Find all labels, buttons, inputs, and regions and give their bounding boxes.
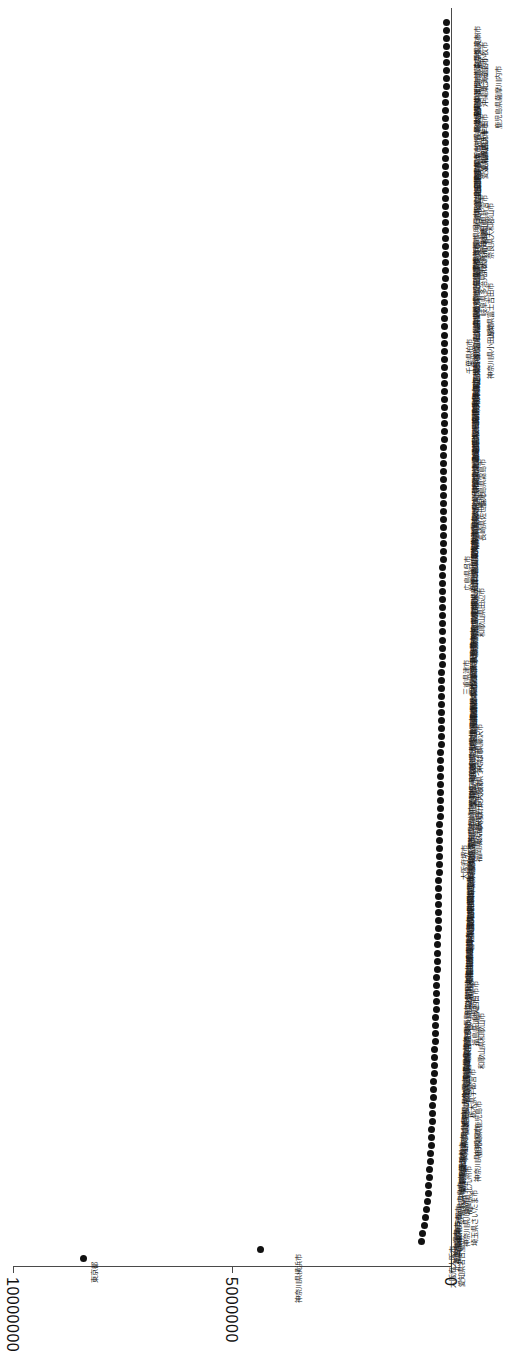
data-point[interactable]: [438, 717, 445, 724]
data-point[interactable]: [442, 243, 449, 250]
data-point[interactable]: [442, 131, 449, 138]
data-point[interactable]: [437, 813, 444, 820]
data-point[interactable]: [438, 725, 445, 732]
data-point[interactable]: [442, 203, 449, 210]
data-point[interactable]: [441, 315, 448, 322]
data-point[interactable]: [434, 958, 441, 965]
data-point[interactable]: [421, 1222, 428, 1229]
data-point[interactable]: [442, 219, 449, 226]
data-point[interactable]: [442, 267, 449, 274]
data-point[interactable]: [442, 251, 449, 258]
data-point[interactable]: [443, 75, 450, 82]
data-point[interactable]: [427, 1150, 434, 1157]
data-point[interactable]: [440, 532, 447, 539]
data-point[interactable]: [440, 444, 447, 451]
data-point[interactable]: [430, 1094, 437, 1101]
data-point[interactable]: [440, 452, 447, 459]
data-point[interactable]: [443, 43, 450, 50]
data-point[interactable]: [442, 179, 449, 186]
data-point[interactable]: [437, 781, 444, 788]
data-point[interactable]: [427, 1158, 434, 1165]
data-point[interactable]: [439, 637, 446, 644]
data-point[interactable]: [441, 340, 448, 347]
data-point[interactable]: [430, 1086, 437, 1093]
data-point[interactable]: [431, 1062, 438, 1069]
data-point[interactable]: [426, 1166, 433, 1173]
data-point[interactable]: [436, 837, 443, 844]
data-point[interactable]: [439, 628, 446, 635]
data-point[interactable]: [437, 749, 444, 756]
data-point[interactable]: [442, 235, 449, 242]
data-point[interactable]: [439, 588, 446, 595]
data-point[interactable]: [439, 645, 446, 652]
data-point[interactable]: [429, 1102, 436, 1109]
data-point[interactable]: [441, 291, 448, 298]
data-point[interactable]: [440, 460, 447, 467]
data-point[interactable]: [418, 1238, 425, 1245]
data-point[interactable]: [442, 155, 449, 162]
data-point[interactable]: [442, 107, 449, 114]
data-point[interactable]: [442, 259, 449, 266]
data-point[interactable]: [425, 1182, 432, 1189]
data-point[interactable]: [433, 1006, 440, 1013]
data-point[interactable]: [441, 396, 448, 403]
data-point[interactable]: [440, 508, 447, 515]
data-point[interactable]: [440, 556, 447, 563]
data-point[interactable]: [436, 845, 443, 852]
data-point[interactable]: [80, 1255, 87, 1262]
data-point[interactable]: [435, 885, 442, 892]
data-point[interactable]: [438, 669, 445, 676]
data-point[interactable]: [437, 773, 444, 780]
data-point[interactable]: [443, 59, 450, 66]
data-point[interactable]: [426, 1174, 433, 1181]
data-point[interactable]: [443, 67, 450, 74]
data-point[interactable]: [440, 548, 447, 555]
data-point[interactable]: [438, 709, 445, 716]
data-point[interactable]: [436, 829, 443, 836]
data-point[interactable]: [431, 1054, 438, 1061]
data-point[interactable]: [428, 1126, 435, 1133]
data-point[interactable]: [433, 998, 440, 1005]
data-point[interactable]: [435, 877, 442, 884]
data-point[interactable]: [442, 195, 449, 202]
data-point[interactable]: [257, 1246, 264, 1253]
data-point[interactable]: [433, 982, 440, 989]
data-point[interactable]: [441, 323, 448, 330]
data-point[interactable]: [442, 275, 449, 282]
data-point[interactable]: [442, 99, 449, 106]
data-point[interactable]: [442, 211, 449, 218]
data-point[interactable]: [438, 741, 445, 748]
data-point[interactable]: [432, 1038, 439, 1045]
data-point[interactable]: [443, 83, 450, 90]
data-point[interactable]: [441, 388, 448, 395]
data-point[interactable]: [442, 227, 449, 234]
data-point[interactable]: [435, 925, 442, 932]
data-point[interactable]: [439, 564, 446, 571]
data-point[interactable]: [441, 332, 448, 339]
data-point[interactable]: [438, 685, 445, 692]
data-point[interactable]: [419, 1230, 426, 1237]
data-point[interactable]: [441, 348, 448, 355]
data-point[interactable]: [443, 51, 450, 58]
data-point[interactable]: [442, 91, 449, 98]
data-point[interactable]: [434, 941, 441, 948]
data-point[interactable]: [439, 572, 446, 579]
data-point[interactable]: [441, 283, 448, 290]
data-point[interactable]: [439, 653, 446, 660]
data-point[interactable]: [440, 484, 447, 491]
data-point[interactable]: [440, 492, 447, 499]
data-point[interactable]: [431, 1070, 438, 1077]
data-point[interactable]: [425, 1190, 432, 1197]
data-point[interactable]: [433, 974, 440, 981]
data-point[interactable]: [439, 580, 446, 587]
data-point[interactable]: [442, 187, 449, 194]
data-point[interactable]: [437, 765, 444, 772]
data-point[interactable]: [442, 123, 449, 130]
data-point[interactable]: [440, 540, 447, 547]
data-point[interactable]: [439, 596, 446, 603]
data-point[interactable]: [436, 821, 443, 828]
data-point[interactable]: [434, 950, 441, 957]
data-point[interactable]: [441, 420, 448, 427]
data-point[interactable]: [428, 1142, 435, 1149]
data-point[interactable]: [443, 35, 450, 42]
